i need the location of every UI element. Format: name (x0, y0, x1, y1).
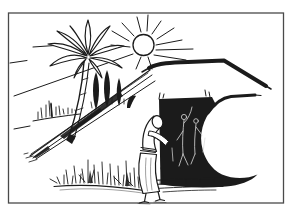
figure-skirt (139, 153, 160, 194)
lower-ridge (208, 95, 261, 113)
sun (14, 15, 193, 96)
palm-tree (48, 20, 124, 144)
figure-legs (138, 192, 166, 205)
palm-crown (48, 20, 124, 78)
ink-drawing (0, 0, 292, 218)
tomb-doorway (159, 90, 258, 187)
illustration-canvas (0, 0, 292, 218)
mountain-ridge (142, 61, 271, 90)
haze-dashes (10, 45, 62, 129)
cypress-trees (91, 70, 136, 110)
distant-reeds (33, 101, 80, 121)
